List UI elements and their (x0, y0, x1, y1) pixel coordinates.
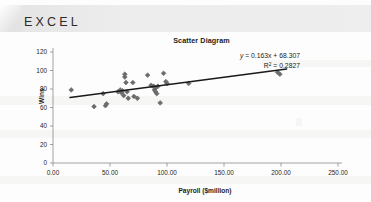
x-axis-ticks: 0.0050.00100.00150.00200.00250.00 (47, 163, 348, 176)
y-tick-label: 120 (36, 48, 47, 55)
trendline-line (70, 69, 287, 98)
y-axis-ticks: 020406080100120 (36, 48, 53, 166)
y-tick-label: 40 (40, 122, 48, 129)
x-tick-label: 0.00 (47, 169, 60, 176)
x-tick-label: 100.00 (157, 169, 177, 176)
excel-header-band: EXCEL (0, 5, 371, 32)
data-point (124, 80, 129, 85)
y-tick-label: 60 (40, 104, 48, 111)
equation-annotation: y = 0.163x + 68.307R2 = 0.2827 (239, 52, 300, 69)
x-tick-label: 50.00 (102, 169, 118, 176)
data-point (130, 80, 135, 85)
data-point (69, 88, 74, 93)
x-axis-title: Payroll ($million) (60, 187, 350, 194)
data-point (92, 104, 97, 109)
trendline (70, 69, 287, 98)
x-tick-label: 150.00 (214, 169, 234, 176)
r-squared-text: R2 = 0.2827 (264, 62, 300, 70)
data-point (158, 100, 163, 105)
plot-canvas: 020406080100120 0.0050.00100.00150.00200… (0, 32, 371, 202)
equation-text: y = 0.163x + 68.307 (239, 52, 300, 60)
data-point (161, 71, 166, 76)
data-points (69, 70, 282, 109)
y-tick-label: 0 (43, 159, 47, 166)
data-point (126, 96, 131, 101)
y-tick-label: 100 (36, 67, 47, 74)
y-axis-title: Wins (38, 88, 45, 104)
x-tick-label: 250.00 (328, 169, 348, 176)
data-point (145, 73, 150, 78)
scatter-chart: Scatter Diagram 020406080100120 0.0050.0… (0, 32, 371, 202)
page-canvas: EXCEL Scatter Diagram 020406080100120 0.… (0, 0, 371, 202)
excel-header-label: EXCEL (24, 15, 81, 29)
y-tick-label: 20 (40, 141, 48, 148)
x-tick-label: 200.00 (271, 169, 291, 176)
